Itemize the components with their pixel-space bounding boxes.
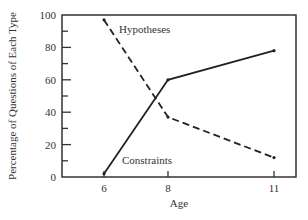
- series-group: [102, 18, 275, 175]
- y-tick-label: 40: [45, 106, 57, 118]
- x-tick-label: 6: [101, 182, 107, 194]
- data-point: [166, 78, 169, 81]
- y-tick-label: 100: [40, 9, 57, 21]
- data-point: [272, 156, 275, 159]
- y-tick-label: 0: [51, 171, 57, 183]
- data-point: [272, 49, 275, 52]
- x-tick-label: 11: [269, 182, 280, 194]
- x-axis-label: Age: [170, 197, 188, 209]
- y-tick-label: 80: [45, 41, 57, 53]
- y-axis-label: Percentage of Questions of Each Type: [6, 12, 18, 180]
- data-point: [102, 18, 105, 21]
- x-axis: 6811: [101, 171, 279, 194]
- line-chart: 020406080100 6811 Age Percentage of Ques…: [0, 0, 308, 220]
- x-tick-label: 8: [165, 182, 171, 194]
- series-label-hypotheses: Hypotheses: [119, 23, 170, 35]
- y-tick-label: 60: [45, 74, 57, 86]
- y-tick-label: 20: [45, 139, 57, 151]
- y-axis: 020406080100: [40, 9, 72, 183]
- series-label-constraints: Constraints: [122, 154, 172, 166]
- data-point: [166, 115, 169, 118]
- data-point: [102, 172, 105, 175]
